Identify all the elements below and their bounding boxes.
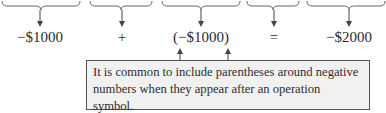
brace-result	[306, 0, 386, 10]
parentheses-note-callout: It is common to include parentheses arou…	[86, 60, 370, 110]
term-negative-1000: −$1000	[17, 29, 63, 46]
term-parenthesized-negative-1000: (−$1000)	[173, 29, 229, 46]
brace-plus	[89, 0, 153, 10]
down-arrow-icon	[36, 10, 44, 27]
down-arrow-icon	[197, 10, 205, 27]
brace-equals	[246, 0, 300, 10]
callout-text: It is common to include parentheses arou…	[93, 65, 358, 113]
brace-term1	[1, 0, 81, 10]
equals-sign: =	[270, 29, 278, 46]
down-arrow-icon	[270, 10, 278, 27]
plus-sign: +	[118, 29, 126, 46]
brace-term2	[161, 0, 241, 10]
down-arrow-icon	[118, 10, 126, 27]
result-negative-2000: −$2000	[326, 29, 372, 46]
down-arrow-icon	[345, 10, 353, 27]
